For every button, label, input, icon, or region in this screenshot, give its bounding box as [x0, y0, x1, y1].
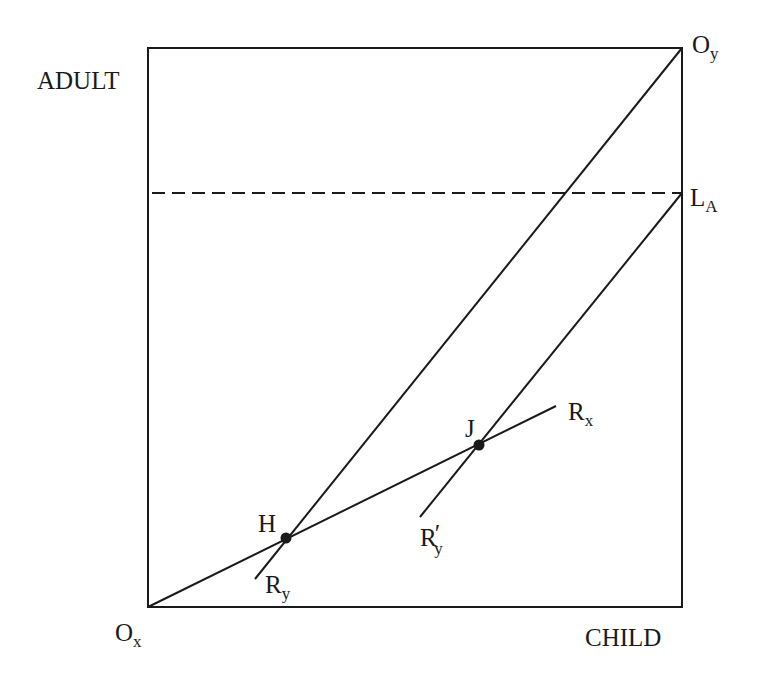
- point-h: [281, 533, 292, 544]
- edgeworth-box-diagram: ADULT CHILD Oy Ox LA Rx Ry R′y H J: [0, 0, 760, 681]
- point-j: [474, 440, 485, 451]
- origin-ox-label: Ox: [115, 619, 142, 651]
- ry-prime-line: [420, 193, 682, 517]
- child-axis-label: CHILD: [585, 624, 661, 651]
- la-label: LA: [690, 184, 718, 216]
- point-j-label: J: [465, 415, 475, 442]
- point-h-label: H: [258, 510, 276, 537]
- origin-oy-label: Oy: [692, 31, 719, 63]
- rx-label: Rx: [568, 398, 594, 430]
- ry-label: Ry: [265, 571, 291, 603]
- ry-line: [255, 48, 682, 579]
- adult-axis-label: ADULT: [37, 67, 119, 94]
- rx-line: [148, 406, 556, 607]
- ry-prime-label: R′y: [420, 520, 443, 558]
- box-frame: [148, 48, 682, 607]
